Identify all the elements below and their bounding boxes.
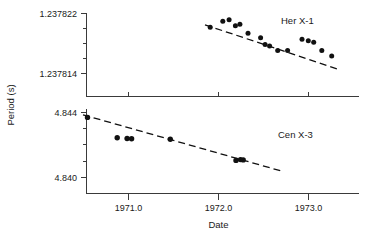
data-point (115, 135, 120, 140)
data-point (237, 22, 242, 27)
bottom-panel-trend-line (83, 115, 281, 171)
xtick-label-1971: 1971.0 (115, 203, 143, 213)
panel-her-x-1: 1.237822 1.237814 (39, 9, 358, 97)
xtick-label-1973: 1973.0 (295, 203, 323, 213)
panel-cen-x-3: 4.844 4.840 Cen X-3 (54, 108, 358, 200)
data-point (208, 25, 213, 30)
data-point (233, 158, 238, 163)
data-point (300, 37, 305, 42)
data-point (220, 19, 225, 24)
chart-figure: Period (s) 1.237822 1.237814 (0, 0, 365, 238)
bottom-panel-ytick-label-upper: 4.844 (54, 108, 77, 118)
data-point (168, 137, 173, 142)
data-point (246, 31, 251, 36)
data-point (227, 17, 232, 22)
series-label-her-x-1: Her X-1 (281, 15, 314, 26)
data-point (258, 35, 263, 40)
data-point (263, 42, 268, 47)
x-axis-label: Date (208, 219, 228, 230)
period-vs-date-scatter-chart: Period (s) 1.237822 1.237814 (0, 0, 365, 238)
top-panel-data-points (208, 17, 335, 58)
data-point (306, 38, 311, 43)
series-label-cen-x-3: Cen X-3 (278, 129, 313, 140)
y-axis-label: Period (s) (5, 84, 16, 125)
data-point (129, 136, 134, 141)
data-point (285, 48, 290, 53)
xtick-label-1972: 1972.0 (205, 203, 233, 213)
data-point (233, 23, 238, 28)
data-point (275, 48, 280, 53)
bottom-panel-ytick-label-lower: 4.840 (54, 173, 77, 183)
data-point (241, 157, 246, 162)
data-point (85, 115, 90, 120)
data-point (329, 53, 334, 58)
top-panel-ytick-label-upper: 1.237822 (39, 9, 77, 19)
data-point (319, 48, 324, 53)
top-panel-ytick-label-lower: 1.237814 (39, 69, 77, 79)
data-point (311, 40, 316, 45)
data-point (267, 44, 272, 49)
